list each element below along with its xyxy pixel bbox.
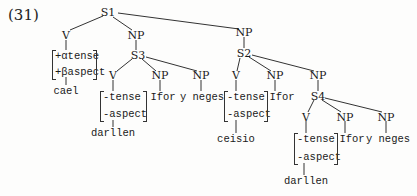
node-np2-top: NP	[235, 27, 252, 38]
word-ifor: Ifor	[150, 92, 175, 103]
node-v4: V	[302, 112, 310, 123]
node-np2b: NP	[309, 70, 326, 81]
syntax-tree-diagram: (31)	[0, 0, 417, 196]
node-s1: S1	[101, 7, 116, 18]
word-darllen: darllen	[91, 128, 135, 139]
node-s2: S2	[237, 48, 252, 59]
node-np3b: NP	[192, 70, 209, 81]
bracket-right	[334, 133, 338, 165]
feature-tense: -tense	[227, 92, 265, 103]
feature-tense: -tense	[103, 92, 141, 103]
node-np1: NP	[127, 30, 144, 41]
feature-tense: -tense	[297, 134, 335, 145]
node-v2: V	[232, 70, 240, 81]
node-np3a: NP	[151, 70, 168, 81]
node-v1: V	[62, 30, 70, 41]
word-y-neges: y neges	[366, 134, 410, 145]
node-s4: S4	[311, 91, 326, 102]
node-np4a: NP	[336, 112, 353, 123]
feature-aspect: -aspect	[103, 109, 147, 120]
word-ifor: Ifor	[269, 92, 294, 103]
word-ceisio: ceisio	[217, 134, 255, 145]
word-cael: cael	[53, 86, 78, 97]
node-v3: V	[109, 70, 117, 81]
bracket-right	[93, 50, 97, 80]
node-np2a: NP	[266, 70, 283, 81]
node-s3: S3	[131, 50, 146, 61]
node-np4b: NP	[377, 112, 394, 123]
bracket-right	[143, 91, 147, 122]
bracket-right	[264, 91, 268, 122]
feature-aspect: +βaspect	[55, 67, 105, 78]
word-y-neges: y neges	[180, 92, 224, 103]
word-darllen: darllen	[284, 176, 328, 187]
word-ifor: Ifor	[339, 134, 364, 145]
